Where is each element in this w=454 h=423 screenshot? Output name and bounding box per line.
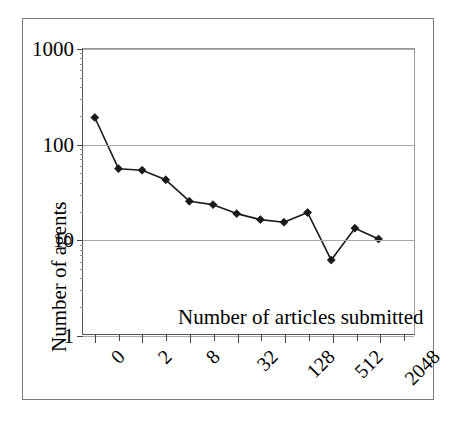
y-axis-minor-tick bbox=[80, 64, 83, 65]
x-axis-tick bbox=[95, 334, 96, 343]
y-axis-minor-tick bbox=[80, 70, 83, 71]
x-axis-tick bbox=[261, 334, 262, 341]
y-axis-tick-label: 10 bbox=[53, 230, 74, 251]
data-point-marker bbox=[375, 235, 383, 243]
data-point-marker bbox=[114, 165, 122, 173]
data-point-marker bbox=[256, 216, 264, 224]
y-axis-tick bbox=[77, 336, 83, 337]
y-axis-minor-tick bbox=[80, 195, 83, 196]
y-axis-minor-tick bbox=[80, 87, 83, 88]
x-axis-tick bbox=[142, 334, 143, 343]
y-axis-tick bbox=[77, 240, 83, 241]
y-axis-tick bbox=[77, 145, 83, 146]
data-point-marker bbox=[280, 218, 288, 226]
chart-figure: Number of agents 10001001010283212851220… bbox=[0, 0, 454, 423]
y-axis-minor-tick bbox=[80, 255, 83, 256]
y-axis-minor-tick bbox=[80, 53, 83, 54]
y-axis-minor-tick bbox=[80, 250, 83, 251]
y-axis-minor-tick bbox=[80, 58, 83, 59]
y-axis-minor-tick bbox=[80, 183, 83, 184]
y-axis-minor-tick bbox=[80, 290, 83, 291]
y-axis-minor-tick bbox=[80, 154, 83, 155]
y-axis-minor-tick bbox=[80, 307, 83, 308]
y-axis-minor-tick bbox=[80, 278, 83, 279]
y-axis-tick-label: 1000 bbox=[32, 39, 74, 60]
y-axis-tick-label: 1 bbox=[64, 326, 75, 347]
x-axis-tick bbox=[238, 334, 239, 343]
y-axis-minor-tick bbox=[80, 78, 83, 79]
y-axis-minor-tick bbox=[80, 99, 83, 100]
y-axis-tick bbox=[77, 49, 83, 50]
x-axis-tick bbox=[404, 334, 405, 341]
y-axis-minor-tick bbox=[80, 262, 83, 263]
y-axis-minor-tick bbox=[80, 159, 83, 160]
x-axis-tick bbox=[166, 334, 167, 341]
y-gridline bbox=[83, 336, 414, 337]
x-axis-title: Number of articles submitted bbox=[178, 307, 424, 328]
y-gridline bbox=[83, 145, 414, 146]
plot-area: 1000100101028321285122048 bbox=[82, 48, 415, 335]
data-point-marker bbox=[209, 201, 217, 209]
y-gridline bbox=[83, 240, 414, 241]
x-axis-tick bbox=[190, 334, 191, 343]
y-axis-minor-tick bbox=[80, 245, 83, 246]
x-axis-tick bbox=[309, 334, 310, 341]
x-axis-tick bbox=[285, 334, 286, 343]
data-point-marker bbox=[233, 210, 241, 218]
y-gridline bbox=[83, 49, 414, 50]
y-axis-minor-tick bbox=[80, 173, 83, 174]
y-axis-minor-tick bbox=[80, 166, 83, 167]
x-axis-tick bbox=[214, 334, 215, 341]
data-point-marker bbox=[304, 209, 312, 217]
y-axis-minor-tick bbox=[80, 212, 83, 213]
series-line bbox=[95, 118, 379, 261]
x-axis-tick bbox=[357, 334, 358, 341]
data-point-marker bbox=[138, 166, 146, 174]
y-axis-minor-tick bbox=[80, 116, 83, 117]
series-line-chart bbox=[83, 49, 414, 334]
y-axis-minor-tick bbox=[80, 149, 83, 150]
x-axis-tick bbox=[380, 334, 381, 343]
y-axis-minor-tick bbox=[80, 269, 83, 270]
data-point-marker bbox=[91, 114, 99, 122]
x-axis-tick bbox=[119, 334, 120, 341]
y-axis-tick-label: 100 bbox=[43, 134, 75, 155]
x-axis-tick bbox=[333, 334, 334, 343]
